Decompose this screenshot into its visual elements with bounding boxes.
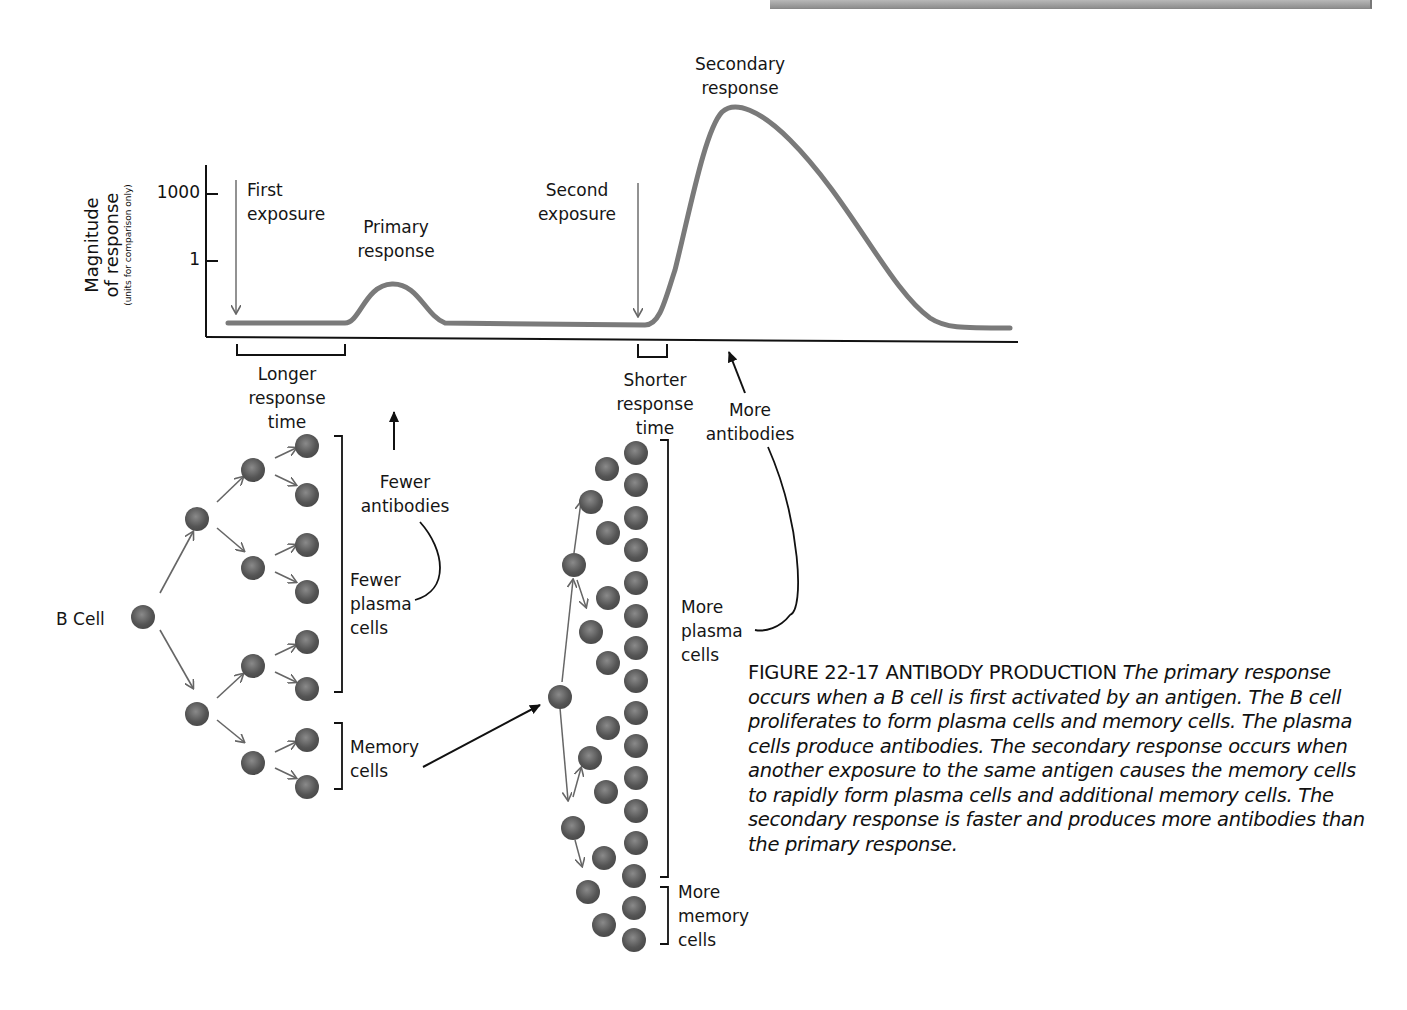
more-memory-bracket	[660, 887, 668, 944]
label-line: Fewer	[350, 568, 412, 592]
y-axis-title-line1: Magnitude	[82, 160, 102, 330]
label-line: More	[681, 595, 743, 619]
more-antibodies-connector	[755, 447, 798, 630]
figure-number: FIGURE 22-17	[748, 661, 879, 684]
shorter-response-time-label: Shorter response time	[605, 368, 705, 440]
more-memory-cells-label: More memory cells	[678, 880, 749, 952]
label-line: plasma	[681, 619, 743, 643]
label-line: cells	[350, 616, 412, 640]
more-plasma-bracket	[660, 440, 668, 877]
antibody-diagram-graphic	[0, 0, 1407, 1010]
label-line: cells	[681, 643, 743, 667]
label-line: First	[247, 178, 325, 202]
figure-title: ANTIBODY PRODUCTION	[885, 661, 1117, 684]
y-tick-1: 1	[140, 249, 200, 269]
label-line: Secondary	[685, 52, 795, 76]
memory-to-secondary-arrow	[423, 705, 540, 767]
label-line: Shorter	[605, 368, 705, 392]
secondary-branch-cells	[548, 441, 648, 952]
label-line: response	[346, 239, 446, 263]
more-antibodies-label: More antibodies	[695, 398, 805, 446]
memory-cells-label: Memory cells	[350, 735, 419, 783]
y-axis-subtitle: (units for comparison only)	[122, 160, 134, 330]
y-axis-title: Magnitude of response (units for compari…	[82, 160, 134, 330]
label-line: memory	[678, 904, 749, 928]
label-line: More	[678, 880, 749, 904]
label-line: Second	[524, 178, 630, 202]
label-line: Fewer	[350, 470, 460, 494]
fewer-antibodies-connector	[415, 522, 440, 600]
longer-response-time-label: Longer response time	[237, 362, 337, 434]
label-line: More	[695, 398, 805, 422]
longer-response-bracket	[237, 344, 345, 355]
secondary-response-label: Secondary response	[685, 52, 795, 100]
primary-branch-arrows	[160, 448, 296, 778]
label-line: time	[605, 416, 705, 440]
fewer-plasma-bracket	[334, 436, 342, 692]
label-line: Memory	[350, 735, 419, 759]
shorter-response-bracket	[638, 344, 667, 357]
label-line: response	[237, 386, 337, 410]
label-line: response	[605, 392, 705, 416]
fewer-antibodies-label: Fewer antibodies	[350, 470, 460, 518]
more-plasma-cells-label: More plasma cells	[681, 595, 743, 667]
primary-response-label: Primary response	[346, 215, 446, 263]
label-line: cells	[678, 928, 749, 952]
label-line: Longer	[237, 362, 337, 386]
label-line: exposure	[524, 202, 630, 226]
figure-caption: FIGURE 22-17 ANTIBODY PRODUCTION The pri…	[748, 661, 1368, 857]
label-line: antibodies	[695, 422, 805, 446]
b-cell-label: B Cell	[56, 607, 105, 631]
label-line: exposure	[247, 202, 325, 226]
memory-cells-bracket	[334, 723, 342, 789]
label-line: antibodies	[350, 494, 460, 518]
y-tick-1000: 1000	[140, 182, 200, 202]
label-line: time	[237, 410, 337, 434]
label-line: Primary	[346, 215, 446, 239]
label-line: response	[685, 76, 795, 100]
label-line: cells	[350, 759, 419, 783]
more-antibodies-arrow	[729, 352, 745, 393]
label-line: plasma	[350, 592, 412, 616]
figure-caption-body: The primary response occurs when a B cel…	[748, 661, 1365, 856]
fewer-plasma-cells-label: Fewer plasma cells	[350, 568, 412, 640]
y-axis-title-line2: of response	[102, 160, 122, 330]
first-exposure-label: First exposure	[247, 178, 325, 226]
second-exposure-label: Second exposure	[524, 178, 630, 226]
